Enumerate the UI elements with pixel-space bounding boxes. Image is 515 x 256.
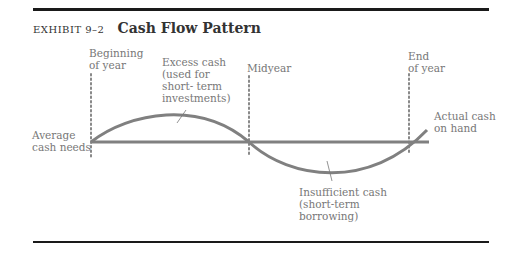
insufficient-label: Insufficient cash (short-term borrowing) [299,186,387,222]
average-label: Average cash needs [32,129,91,153]
midyear-label: Midyear [247,62,291,74]
beginning-label: Beginning of year [89,47,143,71]
insufficient-pointer [327,161,332,181]
actual-label: Actual cash on hand [434,110,496,134]
excess-label: Excess cash (used for short- term invest… [162,56,231,104]
bottom-rule [33,241,489,243]
end-label: End of year [408,50,445,74]
actual-cash-curve [91,115,427,173]
